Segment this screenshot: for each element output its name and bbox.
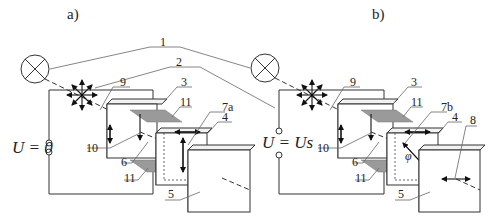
svg-text:3: 3 (181, 75, 187, 89)
screen-plate-5 (188, 145, 255, 212)
svg-text:5: 5 (398, 187, 404, 201)
svg-text:11: 11 (124, 171, 136, 185)
panel-a: a) U = 0 (12, 6, 255, 212)
svg-text:11: 11 (355, 171, 367, 185)
unpolarized-light-icon (297, 80, 327, 110)
diagram-canvas: 1 2 a) U = 0 (0, 0, 503, 218)
svg-text:10: 10 (317, 141, 329, 155)
unpolarized-light-icon (67, 80, 97, 110)
angle-phi-label: φ (405, 149, 412, 163)
svg-text:10: 10 (86, 141, 98, 155)
panel-a-title: a) (67, 6, 79, 23)
svg-text:11: 11 (411, 95, 423, 109)
svg-text:9: 9 (120, 75, 126, 89)
voltage-label-a: U = 0 (12, 138, 53, 157)
svg-text:3: 3 (411, 75, 417, 89)
svg-text:5: 5 (168, 187, 174, 201)
svg-text:4: 4 (452, 110, 458, 124)
label-2: 2 (176, 55, 182, 69)
svg-text:4: 4 (222, 110, 228, 124)
panel-b: b) U = Us (251, 6, 485, 212)
svg-text:11: 11 (180, 95, 192, 109)
lamp-icon (21, 55, 49, 83)
svg-text:9: 9 (350, 75, 356, 89)
voltage-label-b: U = Us (262, 133, 314, 152)
panel-b-title: b) (372, 6, 385, 23)
label-1: 1 (160, 35, 166, 49)
svg-text:6: 6 (352, 155, 358, 169)
svg-text:6: 6 (121, 155, 127, 169)
svg-text:8: 8 (470, 113, 476, 127)
lamp-icon (251, 54, 279, 82)
